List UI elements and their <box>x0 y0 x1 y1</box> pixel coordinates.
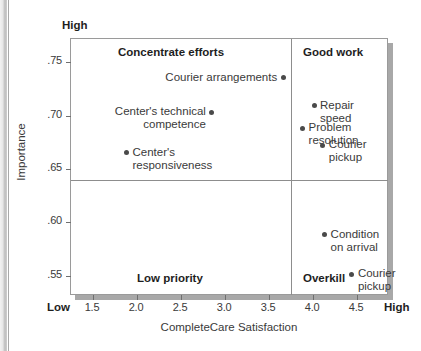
quadrant-divider-horizontal <box>71 180 388 181</box>
x-tick-mark <box>357 295 358 300</box>
y-tick-label: .70 <box>34 108 62 120</box>
y-tick-mark <box>66 276 71 277</box>
quadrant-label-good-work: Good work <box>303 46 363 58</box>
x-axis-endpoint-high: High <box>384 301 410 313</box>
data-point-label: Courier arrangements <box>165 71 277 84</box>
data-point <box>349 272 354 277</box>
data-point-label: Courier pickup <box>329 138 367 164</box>
x-tick-mark <box>181 295 182 300</box>
y-axis-title: Importance <box>15 107 27 197</box>
x-tick-label: 4.0 <box>292 301 332 313</box>
y-tick-label: .75 <box>34 54 62 66</box>
scatter-chart-figure: High Low High Importance CompleteCare Sa… <box>0 0 421 351</box>
data-point <box>322 232 327 237</box>
x-tick-label: 2.0 <box>116 301 156 313</box>
data-point-label: Center's responsiveness <box>132 146 212 172</box>
y-tick-label: .55 <box>34 268 62 280</box>
quadrant-label-low-priority: Low priority <box>137 272 203 284</box>
data-point-label: Courier pickup <box>358 267 396 293</box>
y-tick-mark <box>66 169 71 170</box>
data-point <box>312 103 317 108</box>
quadrant-label-overkill: Overkill <box>303 272 345 284</box>
data-point <box>281 75 286 80</box>
x-tick-mark <box>313 295 314 300</box>
quadrant-label-concentrate-efforts: Concentrate efforts <box>118 46 224 58</box>
data-point <box>300 126 305 131</box>
y-tick-mark <box>66 62 71 63</box>
x-tick-label: 3.5 <box>248 301 288 313</box>
x-tick-label: 3.0 <box>204 301 244 313</box>
quadrant-divider-vertical <box>291 39 292 295</box>
x-tick-label: 1.5 <box>72 301 112 313</box>
data-point <box>209 110 214 115</box>
plot-area: Concentrate efforts Good work Low priori… <box>70 38 388 295</box>
data-point <box>320 143 325 148</box>
x-tick-mark <box>269 295 270 300</box>
x-axis-title: CompleteCare Satisfaction <box>70 321 388 333</box>
y-tick-mark <box>66 222 71 223</box>
x-tick-mark <box>137 295 138 300</box>
y-tick-label: .60 <box>34 214 62 226</box>
x-tick-label: 4.5 <box>336 301 376 313</box>
plot-frame-shadow-bottom <box>75 295 393 300</box>
data-point <box>124 150 129 155</box>
data-point-label: Condition on arrival <box>331 228 380 254</box>
plot-frame-shadow-right <box>388 43 393 300</box>
y-tick-mark <box>66 116 71 117</box>
x-axis-endpoint-low: Low <box>47 301 70 313</box>
y-axis-endpoint-high: High <box>62 19 88 31</box>
y-tick-label: .65 <box>34 161 62 173</box>
x-tick-mark <box>93 295 94 300</box>
data-point-label: Center's technical competence <box>115 105 206 131</box>
x-tick-mark <box>225 295 226 300</box>
x-tick-label: 2.5 <box>160 301 200 313</box>
